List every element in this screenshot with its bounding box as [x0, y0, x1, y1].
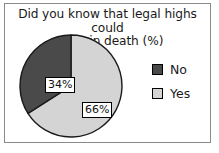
legend-item-yes[interactable]: Yes	[152, 81, 210, 105]
legend-label-yes: Yes	[170, 87, 190, 100]
pie-chart: 34% 66%	[19, 34, 123, 138]
legend-label-no: No	[170, 63, 187, 76]
chart-frame: Did you know that legal highs could resu…	[4, 3, 211, 143]
pie-data-label-yes: 66%	[82, 102, 112, 118]
legend-item-no[interactable]: No	[152, 57, 210, 81]
legend-swatch-yes	[152, 88, 163, 99]
chart-legend: No Yes	[152, 57, 210, 105]
legend-swatch-no	[152, 64, 163, 75]
pie-data-label-no: 34%	[45, 77, 75, 93]
